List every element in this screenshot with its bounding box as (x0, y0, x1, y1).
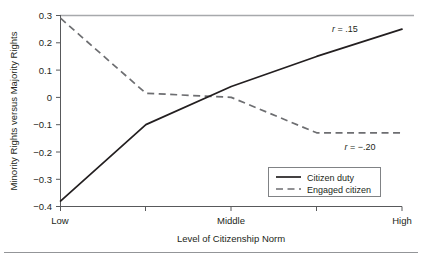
legend-label-citizen-duty: Citizen duty (307, 173, 355, 183)
annotation-r-value-dashed: = −.20 (347, 142, 375, 152)
x-tick-label-high: High (392, 215, 412, 226)
y-tick-label-3: 0 (47, 92, 52, 103)
x-tick-marks (61, 207, 403, 212)
x-tick-label-low: Low (51, 215, 69, 226)
legend: Citizen duty Engaged citizen (269, 168, 381, 197)
y-tick-label-7: −0.4 (33, 201, 52, 212)
figure-container: 0.3 0.2 0.1 0 −0.1 −0.2 −0.3 −0.4 Minori… (0, 0, 422, 262)
annotation-r-citizen-duty: r = .15 (332, 24, 358, 34)
y-tick-label-0: 0.3 (39, 10, 52, 21)
annotation-r-value-solid: = .15 (335, 24, 358, 34)
y-tick-label-4: −0.1 (33, 119, 52, 130)
x-axis-title: Level of Citizenship Norm (177, 233, 285, 244)
y-tick-label-1: 0.2 (39, 37, 52, 48)
y-tick-marks (56, 16, 60, 207)
chart-canvas: 0.3 0.2 0.1 0 −0.1 −0.2 −0.3 −0.4 Minori… (0, 0, 422, 262)
y-tick-label-5: −0.2 (33, 147, 52, 158)
y-tick-label-6: −0.3 (33, 174, 52, 185)
y-axis-title: Minority Rights versus Majority Rights (8, 31, 19, 190)
legend-label-engaged-citizen: Engaged citizen (307, 185, 371, 195)
x-tick-label-middle: Middle (217, 215, 245, 226)
y-tick-label-2: 0.1 (39, 65, 52, 76)
series-line-engaged-citizen (61, 18, 403, 133)
annotation-r-engaged-citizen: r = −.20 (344, 142, 375, 152)
